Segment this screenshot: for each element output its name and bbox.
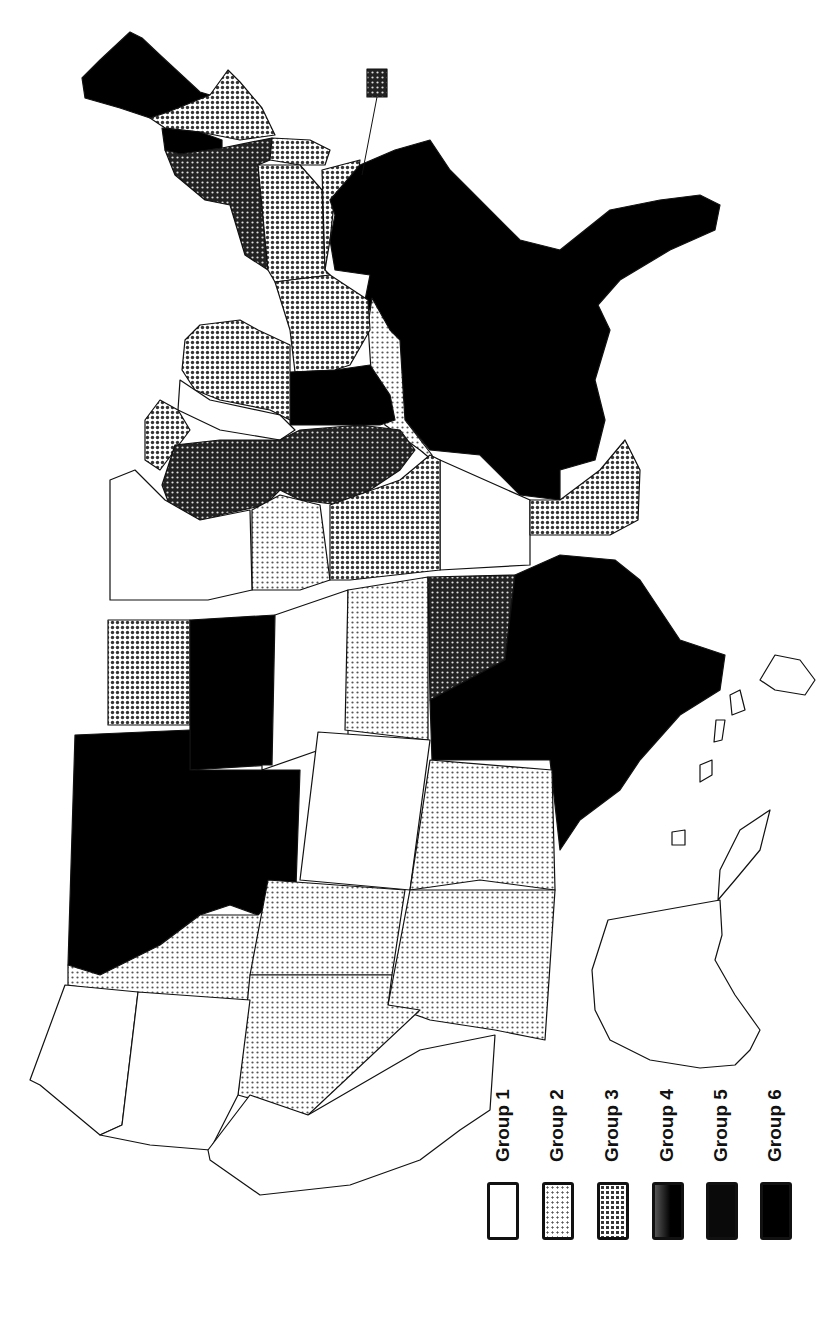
region-alaska <box>592 900 760 1068</box>
legend-swatch-group-6 <box>760 1182 792 1240</box>
hawaii-island-4 <box>700 760 712 782</box>
legend-label-group-3: Group 3 <box>601 1089 623 1162</box>
legend-label-group-4: Group 4 <box>656 1089 678 1162</box>
hawaii-island-2 <box>730 690 745 715</box>
region-new-york <box>165 138 272 270</box>
inset-callout-box <box>367 69 387 97</box>
region-utah <box>250 880 405 975</box>
region-kansas <box>345 577 428 740</box>
region-colorado <box>300 732 430 890</box>
legend-label-group-6: Group 6 <box>764 1089 786 1162</box>
region-wisconsin <box>252 495 330 590</box>
hawaii-big-island <box>760 655 815 695</box>
region-new-mexico <box>388 890 555 1040</box>
legend-swatch-group-4 <box>652 1182 684 1240</box>
region-mid-atlantic-coast <box>270 138 330 165</box>
alaska-panhandle <box>718 810 770 900</box>
legend-swatch-group-5 <box>706 1182 738 1240</box>
region-texas <box>410 760 555 890</box>
legend-swatch-group-2 <box>542 1182 574 1240</box>
hawaii-island-5 <box>672 830 685 845</box>
legend-swatch-group-3 <box>597 1182 629 1240</box>
state-regions <box>30 32 815 1195</box>
legend-swatch-group-1 <box>487 1182 519 1240</box>
region-pennsylvania <box>258 165 330 282</box>
region-south-dakota <box>190 615 275 770</box>
legend-label-group-5: Group 5 <box>710 1089 732 1162</box>
region-north-dakota <box>108 620 190 725</box>
legend-label-group-2: Group 2 <box>546 1089 568 1162</box>
legend-label-group-1: Group 1 <box>492 1089 514 1162</box>
hawaii-island-3 <box>714 720 725 742</box>
region-washington <box>30 985 138 1135</box>
